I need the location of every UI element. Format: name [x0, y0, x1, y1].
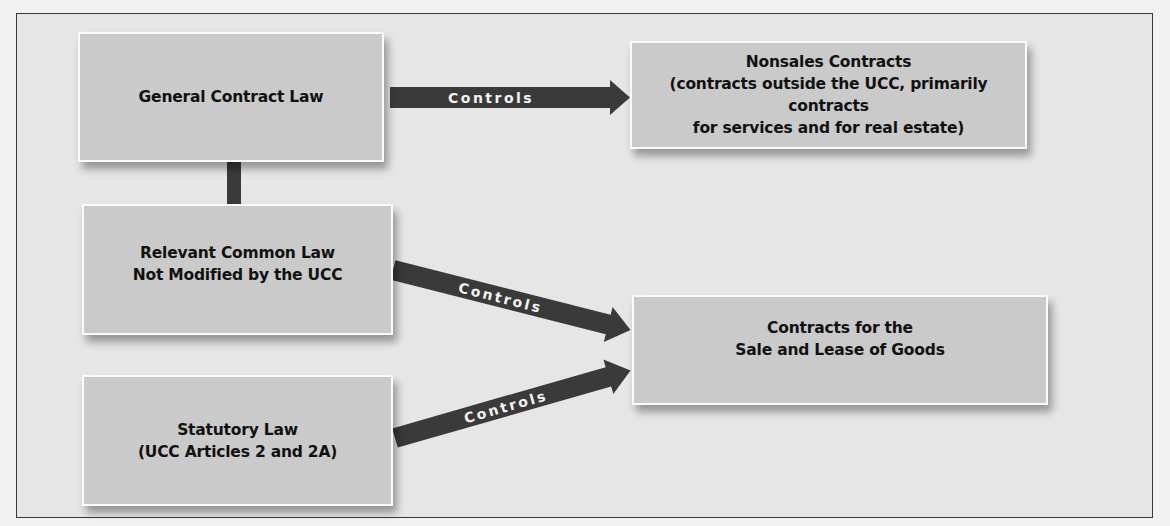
node-general-contract-law: General Contract Law	[78, 32, 384, 162]
node-title: Contracts for the	[767, 317, 913, 339]
node-sale-lease-goods: Contracts for the Sale and Lease of Good…	[632, 295, 1048, 405]
node-nonsales-contracts: Nonsales Contracts (contracts outside th…	[630, 41, 1027, 149]
node-statutory-law: Statutory Law (UCC Articles 2 and 2A)	[82, 375, 393, 506]
arrow-controls-common-law: Controls	[389, 253, 635, 348]
node-title: Statutory Law	[177, 419, 298, 441]
node-text: for services and for real estate)	[693, 117, 964, 139]
node-text: Not Modified by the UCC	[133, 264, 343, 286]
arrow-controls-statutory: Controls	[390, 353, 635, 455]
arrow-label: Controls	[457, 279, 545, 316]
node-text: General Contract Law	[139, 86, 324, 108]
node-text: Sale and Lease of Goods	[735, 339, 944, 361]
node-title: Relevant Common Law	[140, 242, 335, 264]
node-text: (contracts outside the UCC, primarily co…	[632, 73, 1025, 117]
arrow-label: Controls	[448, 90, 534, 106]
node-title: Nonsales Contracts	[746, 51, 912, 73]
node-text: (UCC Articles 2 and 2A)	[138, 441, 337, 463]
node-relevant-common-law: Relevant Common Law Not Modified by the …	[82, 204, 393, 335]
arrow-controls-nonsales: Controls	[390, 80, 630, 115]
